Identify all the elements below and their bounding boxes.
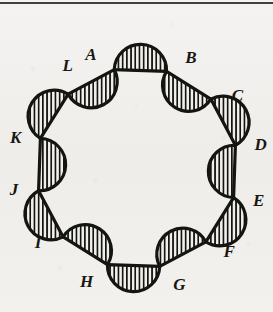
- lobe-HI: [63, 225, 111, 265]
- lobe-FG: [157, 228, 206, 266]
- lobe-IJ: [25, 191, 63, 240]
- vertex-label-K: K: [9, 128, 23, 147]
- lobes-layer: [25, 44, 249, 291]
- lobe-LA: [68, 70, 117, 108]
- lobe-GH: [107, 265, 159, 292]
- lobe-hatch-fill: [39, 138, 66, 190]
- scalloped-ring-figure: ABCDEFGHIJKL: [0, 0, 273, 312]
- vertex-label-A: A: [84, 45, 96, 64]
- vertex-label-E: E: [252, 191, 264, 210]
- figure-page: ABCDEFGHIJKL: [0, 0, 273, 312]
- lobe-hatch-fill: [208, 145, 235, 197]
- lobe-AB: [114, 44, 166, 71]
- lobe-JK: [39, 138, 66, 190]
- vertex-label-B: B: [184, 48, 196, 67]
- lobe-hatch-fill: [107, 265, 159, 292]
- lobe-BC: [163, 71, 211, 111]
- vertex-label-L: L: [62, 56, 73, 75]
- lobe-DE: [208, 145, 235, 197]
- lobe-CD: [211, 96, 249, 145]
- vertex-label-G: G: [173, 275, 186, 294]
- vertex-label-C: C: [232, 86, 244, 105]
- vertex-label-F: F: [222, 242, 235, 261]
- vertex-label-H: H: [79, 272, 94, 291]
- lobe-KL: [28, 90, 68, 138]
- lobe-EF: [206, 198, 246, 246]
- vertex-label-J: J: [9, 180, 19, 199]
- vertex-label-D: D: [254, 135, 267, 154]
- lobe-hatch-fill: [114, 44, 166, 71]
